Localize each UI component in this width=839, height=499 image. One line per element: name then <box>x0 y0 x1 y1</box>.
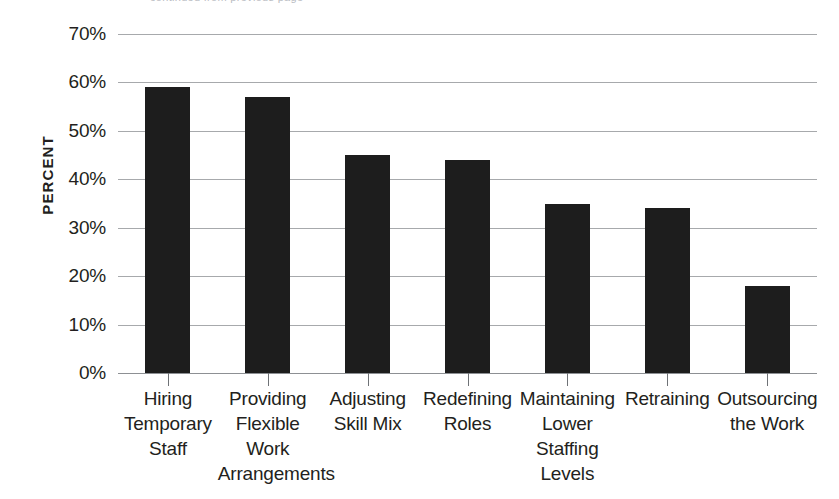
x-tick <box>468 373 469 386</box>
category-label-line: Outsourcing <box>717 386 817 411</box>
category-label-line: Skill Mix <box>318 411 418 436</box>
y-tick-label-50: 50% <box>69 120 106 142</box>
bar <box>145 87 190 373</box>
clipped-header-label: continued from previous page <box>150 0 303 3</box>
bar <box>645 208 690 373</box>
bar <box>745 286 790 373</box>
x-tick <box>567 373 568 386</box>
category-label-line: the Work <box>717 411 817 436</box>
plot-area <box>118 34 817 373</box>
category-label-line: Hiring <box>118 386 218 411</box>
category-label-line: Adjusting <box>318 386 418 411</box>
bar-series <box>118 34 817 373</box>
x-tick <box>767 373 768 386</box>
category-label-line: Flexible <box>218 411 318 436</box>
category-label-line: Temporary <box>118 411 218 436</box>
category-label-line: Redefining <box>418 386 518 411</box>
y-tick-label-70: 70% <box>69 23 106 45</box>
x-axis-category-labels: HiringTemporaryStaffProvidingFlexibleWor… <box>118 386 817 499</box>
clipped-header-text: continued from previous page <box>0 0 839 9</box>
category-label: MaintainingLowerStaffingLevels <box>517 386 617 486</box>
category-label: HiringTemporaryStaff <box>118 386 218 461</box>
category-label-line: Lower <box>517 411 617 436</box>
category-label-line: Work <box>218 436 318 461</box>
category-label-line: Providing <box>218 386 318 411</box>
category-label: Outsourcingthe Work <box>717 386 817 436</box>
category-label-line: Maintaining <box>517 386 617 411</box>
x-tick <box>368 373 369 386</box>
category-label-line: Roles <box>418 411 518 436</box>
y-tick-label-20: 20% <box>69 265 106 287</box>
category-label-line: Levels <box>517 461 617 486</box>
y-axis-tick-labels: 70%60%50%40%30%20%10%0% <box>0 0 118 499</box>
bar <box>345 155 390 373</box>
category-label-line: Retraining <box>617 386 717 411</box>
x-tick <box>268 373 269 386</box>
category-label-line: Staffing <box>517 436 617 461</box>
category-label-line: Arrangements <box>218 461 318 486</box>
y-tick-label-40: 40% <box>69 168 106 190</box>
bar <box>245 97 290 373</box>
category-label: AdjustingSkill Mix <box>318 386 418 436</box>
category-label: RedefiningRoles <box>418 386 518 436</box>
y-tick-label-30: 30% <box>69 217 106 239</box>
x-axis-ticks <box>118 373 817 387</box>
category-label: ProvidingFlexibleWorkArrangements <box>218 386 318 486</box>
category-label: Retraining <box>617 386 717 411</box>
bar-chart: continued from previous page PERCENT 70%… <box>0 0 839 499</box>
category-label-line: Staff <box>118 436 218 461</box>
y-tick-label-10: 10% <box>69 314 106 336</box>
x-tick <box>667 373 668 386</box>
x-tick <box>168 373 169 386</box>
y-tick-label-60: 60% <box>69 71 106 93</box>
bar <box>445 160 490 373</box>
y-tick-label-0: 0% <box>79 362 106 384</box>
bar <box>545 204 590 374</box>
